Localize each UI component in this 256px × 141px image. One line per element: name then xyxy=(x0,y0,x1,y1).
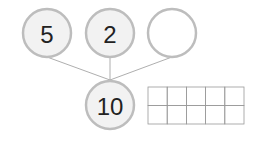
ten-frame-cell xyxy=(186,106,205,125)
part-1-value: 5 xyxy=(40,21,53,48)
part-circle-2: 2 xyxy=(86,9,134,57)
ten-frame-cell xyxy=(225,87,244,106)
ten-frame-cell xyxy=(167,87,186,106)
connector-line-part3 xyxy=(110,57,172,80)
whole-value: 10 xyxy=(97,93,124,120)
whole-circle: 10 xyxy=(86,81,134,129)
part-2-value: 2 xyxy=(103,21,116,48)
ten-frame-cell xyxy=(186,87,205,106)
ten-frame-cell xyxy=(206,87,225,106)
part-circle-3-empty[interactable] xyxy=(148,9,196,57)
ten-frame-cell xyxy=(225,106,244,125)
ten-frame xyxy=(148,87,244,124)
connector-line-part1 xyxy=(47,57,110,80)
ten-frame-cell xyxy=(206,106,225,125)
ten-frame-cell xyxy=(148,87,167,106)
ten-frame-cell xyxy=(167,106,186,125)
ten-frame-cell xyxy=(148,106,167,125)
number-bond-diagram: 5 2 10 xyxy=(0,0,256,141)
part-circle-1: 5 xyxy=(23,9,71,57)
